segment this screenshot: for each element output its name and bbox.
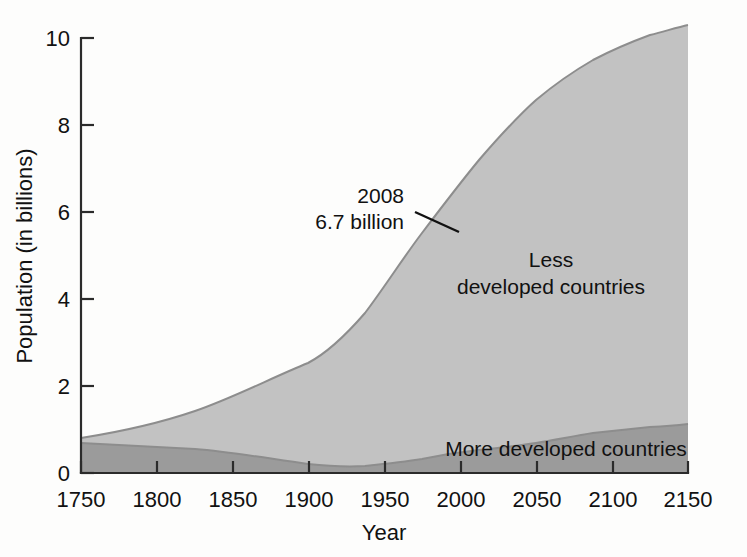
x-tick-label-1750: 1750 (57, 487, 106, 512)
x-tick-label-1850: 1850 (209, 487, 258, 512)
x-tick-label-2100: 2100 (589, 487, 638, 512)
x-tick-label-2050: 2050 (513, 487, 562, 512)
y-tick-label-2: 2 (58, 374, 70, 399)
y-axis-title: Population (in billions) (12, 148, 37, 363)
area-label-less-developed-line2: developed countries (457, 275, 645, 298)
annotation-2008-line2: 6.7 billion (315, 210, 404, 233)
x-tick-label-1800: 1800 (133, 487, 182, 512)
area-label-less-developed-line1: Less (529, 248, 573, 271)
x-tick-label-1950: 1950 (361, 487, 410, 512)
y-tick-label-6: 6 (58, 200, 70, 225)
y-tick-label-10: 10 (46, 26, 70, 51)
y-tick-label-0: 0 (58, 461, 70, 486)
x-tick-label-2150: 2150 (664, 487, 713, 512)
x-tick-label-2000: 2000 (437, 487, 486, 512)
area-label-more-developed: More developed countries (445, 437, 687, 460)
population-projection-figure: 10 8 6 4 2 0 1750 1800 1850 1900 1950 20… (0, 0, 747, 557)
area-chart: 10 8 6 4 2 0 1750 1800 1850 1900 1950 20… (0, 0, 747, 557)
y-tick-label-4: 4 (58, 287, 70, 312)
x-axis-title: Year (362, 520, 406, 545)
x-tick-label-1900: 1900 (285, 487, 334, 512)
annotation-2008-line1: 2008 (357, 184, 404, 207)
y-tick-label-8: 8 (58, 113, 70, 138)
